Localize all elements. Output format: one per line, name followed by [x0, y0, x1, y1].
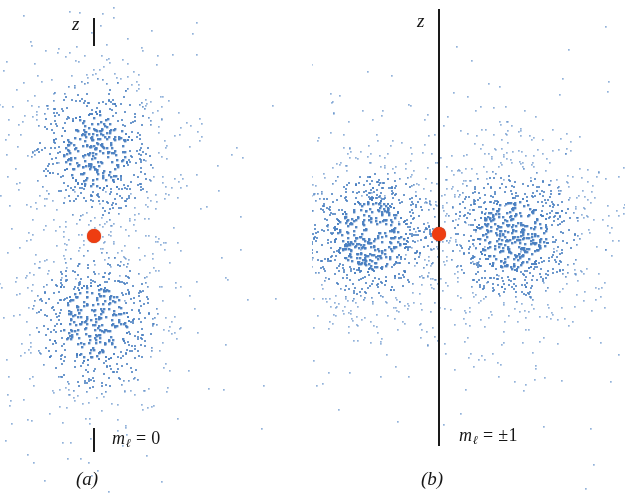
panel-caption: (a): [76, 468, 98, 490]
orbital-probability-figure: z mℓ = 0 (a) z mℓ = ±1 (b): [0, 0, 625, 499]
panel-ml-zero: z mℓ = 0 (a): [0, 0, 312, 499]
quantum-number-subscript: ℓ: [473, 433, 478, 447]
z-axis-label: z: [72, 14, 79, 33]
quantum-number-label: mℓ = 0: [112, 428, 161, 451]
probability-cloud-ml-zero: [0, 0, 312, 499]
z-axis-tick-bottom: [93, 428, 95, 452]
z-axis-tick-top: [93, 18, 95, 46]
nucleus-marker: [432, 227, 446, 241]
quantum-number-subscript: ℓ: [126, 436, 131, 450]
quantum-number-value: ±1: [498, 425, 517, 445]
quantum-number-symbol: m: [459, 425, 472, 445]
z-axis-label: z: [417, 11, 424, 30]
quantum-number-value: 0: [151, 428, 160, 448]
quantum-number-symbol: m: [112, 428, 125, 448]
quantum-number-label: mℓ = ±1: [459, 425, 518, 448]
quantum-number-equals: =: [483, 425, 493, 445]
nucleus-marker: [87, 229, 101, 243]
panel-caption: (b): [421, 468, 443, 490]
quantum-number-equals: =: [136, 428, 146, 448]
